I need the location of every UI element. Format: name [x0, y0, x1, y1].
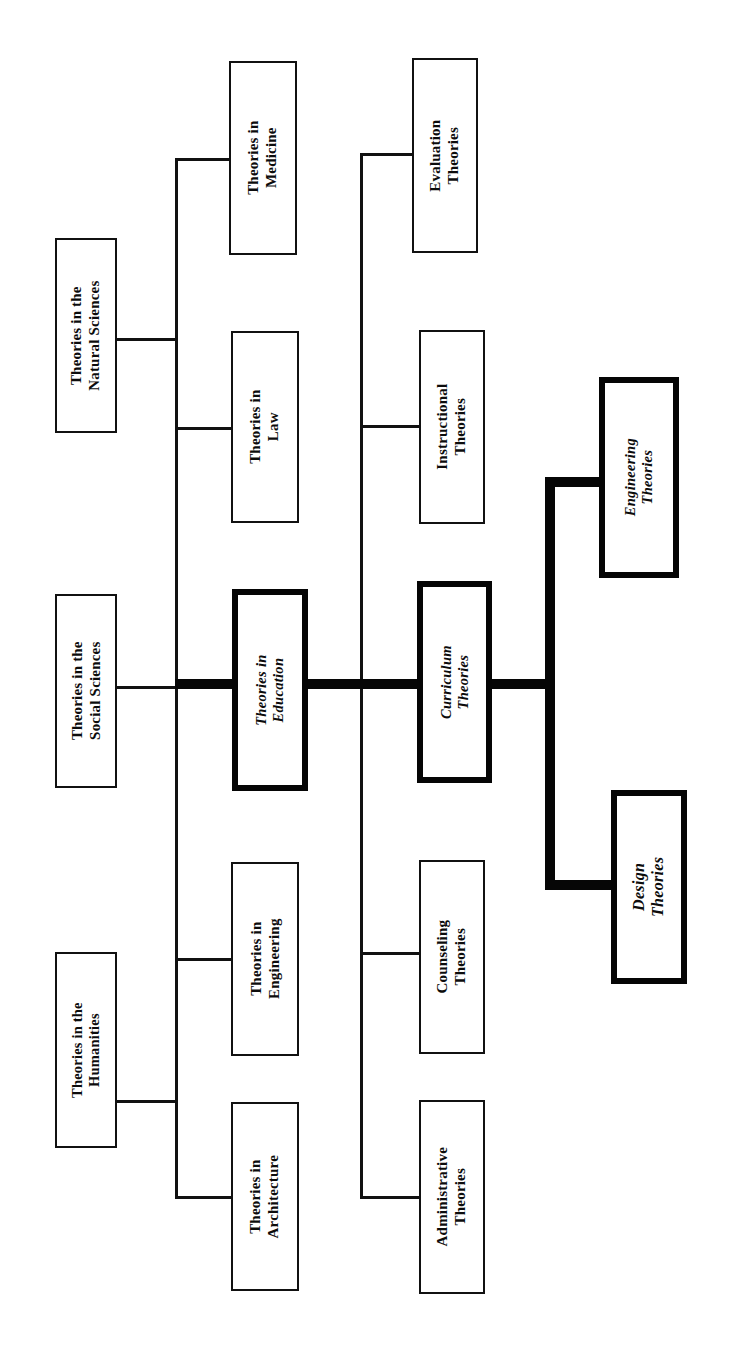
connector-c-counseling [360, 952, 420, 955]
node-label-instructional: Instructional Theories [434, 384, 469, 470]
connector-c-engineering-th [545, 477, 603, 487]
connector-c-edu-trunk [307, 679, 361, 689]
node-label-medicine: Theories in Medicine [245, 121, 280, 195]
node-instructional[interactable]: Instructional Theories [419, 330, 485, 524]
node-humanities[interactable]: Theories in the Humanities [55, 952, 117, 1148]
node-label-engineering: Theories in Engineering [247, 919, 282, 1000]
node-label-administrative: Administrative Theories [434, 1147, 469, 1246]
node-curriculum[interactable]: Curriculum Theories [417, 581, 492, 783]
node-administrative[interactable]: Administrative Theories [419, 1100, 485, 1294]
node-label-law: Theories in Law [247, 390, 282, 464]
diagram-canvas: Theories in the HumanitiesTheories in th… [0, 0, 729, 1362]
node-label-natural-sciences: Theories in the Natural Sciences [68, 280, 103, 390]
node-counseling[interactable]: Counseling Theories [419, 860, 485, 1054]
connector-c-instructional [360, 425, 420, 428]
node-engineering-th[interactable]: Engineering Theories [599, 377, 679, 578]
connector-trunk-trunk-education [360, 153, 363, 1198]
node-engineering[interactable]: Theories in Engineering [231, 862, 299, 1056]
connector-c-curr-trunk [491, 679, 553, 689]
node-label-engineering-th: Engineering Theories [622, 438, 656, 516]
node-architecture[interactable]: Theories in Architecture [231, 1102, 299, 1291]
connector-c-evaluation [360, 153, 413, 156]
node-label-social-sciences: Theories in the Social Sciences [68, 642, 103, 741]
connector-c-social [117, 686, 175, 689]
connector-c-law [175, 427, 232, 430]
node-natural-sciences[interactable]: Theories in the Natural Sciences [55, 238, 117, 433]
connector-c-curriculum [360, 679, 418, 689]
node-label-counseling: Counseling Theories [434, 920, 469, 994]
node-label-education: Theories in Education [253, 654, 287, 725]
connector-c-design [545, 880, 615, 890]
connector-c-natural [117, 338, 175, 341]
node-label-curriculum: Curriculum Theories [437, 645, 471, 719]
connector-trunk-trunk-disciplines [175, 158, 178, 1196]
connector-c-engineering [175, 958, 232, 961]
node-label-design: Design Theories [630, 857, 668, 917]
node-label-architecture: Theories in Architecture [247, 1155, 282, 1238]
connector-c-administrative [360, 1196, 420, 1199]
node-evaluation[interactable]: Evaluation Theories [412, 58, 478, 253]
node-law[interactable]: Theories in Law [231, 331, 299, 523]
node-design[interactable]: Design Theories [611, 790, 687, 984]
connector-c-education [175, 679, 233, 689]
node-social-sciences[interactable]: Theories in the Social Sciences [55, 594, 117, 788]
node-education[interactable]: Theories in Education [232, 589, 308, 791]
node-medicine[interactable]: Theories in Medicine [229, 61, 297, 255]
connector-c-humanities [117, 1100, 175, 1103]
node-label-evaluation: Evaluation Theories [427, 119, 462, 191]
connector-c-architecture [175, 1196, 232, 1199]
connector-c-medicine [175, 158, 230, 161]
node-label-humanities: Theories in the Humanities [69, 1002, 103, 1098]
